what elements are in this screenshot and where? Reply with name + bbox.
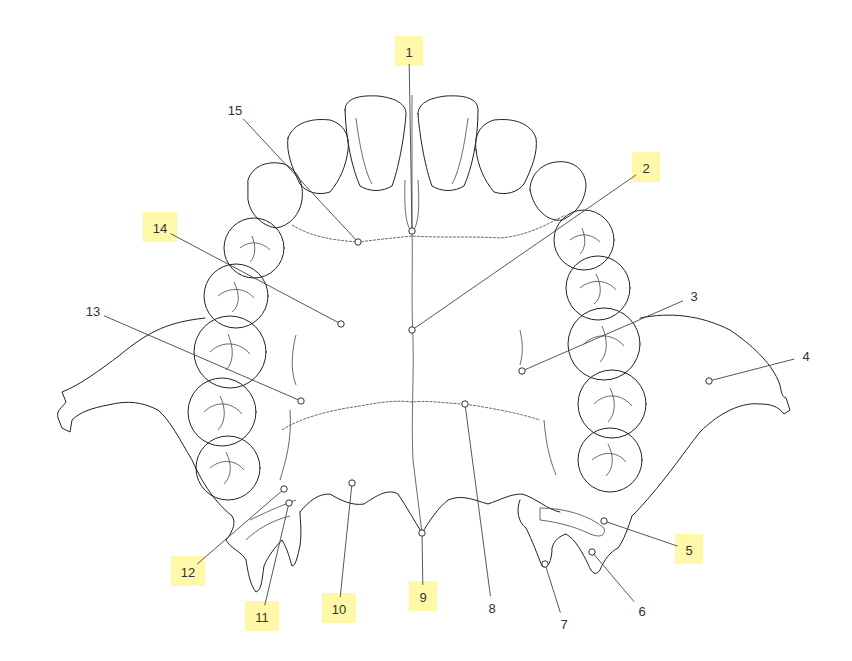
- target-dot: [281, 486, 287, 492]
- label-5: 5: [601, 518, 703, 564]
- leader-line: [243, 119, 358, 242]
- label-2: 2: [409, 152, 660, 333]
- dentition: [188, 96, 646, 500]
- label-6: 6: [589, 549, 646, 619]
- label-number: 9: [419, 590, 426, 605]
- label-9: 9: [409, 530, 437, 611]
- label-number: 7: [560, 617, 567, 632]
- leader-line: [604, 521, 678, 546]
- label-number: 4: [802, 349, 809, 364]
- maxilla-diagram: 123456789101112131415: [0, 0, 852, 661]
- leader-line: [709, 359, 794, 381]
- target-dot: [542, 561, 548, 567]
- leader-line: [522, 301, 683, 371]
- target-dot: [601, 518, 607, 524]
- leader-line: [465, 404, 490, 596]
- label-number: 3: [690, 289, 697, 304]
- label-12: 12: [171, 486, 287, 586]
- label-4: 4: [706, 349, 810, 384]
- label-14: 14: [143, 212, 344, 327]
- label-number: 1: [405, 45, 412, 60]
- leader-line: [545, 564, 560, 613]
- target-dot: [589, 549, 595, 555]
- label-number: 11: [255, 610, 269, 625]
- target-dot: [706, 378, 712, 384]
- label-number: 5: [685, 543, 692, 558]
- target-dot: [419, 530, 425, 536]
- label-number: 14: [153, 221, 167, 236]
- leader-line: [409, 64, 412, 231]
- label-number: 10: [332, 602, 346, 617]
- target-dot: [355, 239, 361, 245]
- label-10: 10: [322, 480, 356, 623]
- label-number: 8: [488, 601, 495, 616]
- label-3: 3: [519, 289, 698, 374]
- label-8: 8: [462, 401, 496, 616]
- label-number: 6: [638, 604, 645, 619]
- label-number: 13: [86, 304, 100, 319]
- label-7: 7: [542, 561, 568, 632]
- label-number: 2: [642, 161, 649, 176]
- label-number: 15: [228, 103, 242, 118]
- target-dot: [286, 500, 292, 506]
- leader-line: [412, 175, 636, 330]
- label-layer: 123456789101112131415: [86, 36, 810, 632]
- target-dot: [338, 321, 344, 327]
- target-dot: [462, 401, 468, 407]
- leader-line: [422, 533, 423, 585]
- leader-line: [171, 234, 341, 324]
- target-dot: [519, 368, 525, 374]
- leader-line: [265, 503, 289, 605]
- target-dot: [349, 480, 355, 486]
- label-11: 11: [245, 500, 292, 631]
- target-dot: [298, 398, 304, 404]
- label-number: 12: [181, 565, 195, 580]
- diagram-canvas: 123456789101112131415: [0, 0, 852, 661]
- leader-line: [592, 552, 634, 602]
- target-dot: [409, 228, 415, 234]
- target-dot: [409, 327, 415, 333]
